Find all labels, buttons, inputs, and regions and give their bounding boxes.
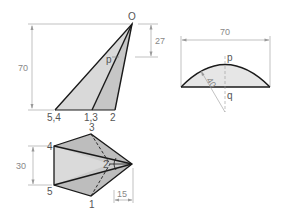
front-view (28, 24, 158, 110)
dim-width-70-section: 70 (220, 27, 230, 37)
label-point-4: 4 (47, 141, 53, 152)
dim-offset-15: 15 (117, 189, 127, 199)
label-point-5: 5 (47, 186, 53, 197)
dim-width-30: 30 (16, 161, 26, 171)
label-base-2: 2 (110, 112, 116, 123)
dim-offset-27: 27 (155, 36, 165, 46)
label-apex-o: O (128, 11, 136, 22)
technical-drawing: O p 5,4 1,3 2 70 27 70 p q 40 (0, 0, 290, 214)
label-point-2: 2 (103, 159, 109, 170)
label-p-front: p (106, 54, 112, 65)
label-p-section: p (227, 52, 233, 63)
section-view (181, 36, 270, 112)
label-point-3: 3 (89, 122, 95, 133)
label-base-5-4: 5,4 (47, 112, 61, 123)
dim-height-70: 70 (18, 63, 28, 73)
label-point-1: 1 (89, 199, 95, 210)
label-q-section: q (227, 90, 233, 101)
